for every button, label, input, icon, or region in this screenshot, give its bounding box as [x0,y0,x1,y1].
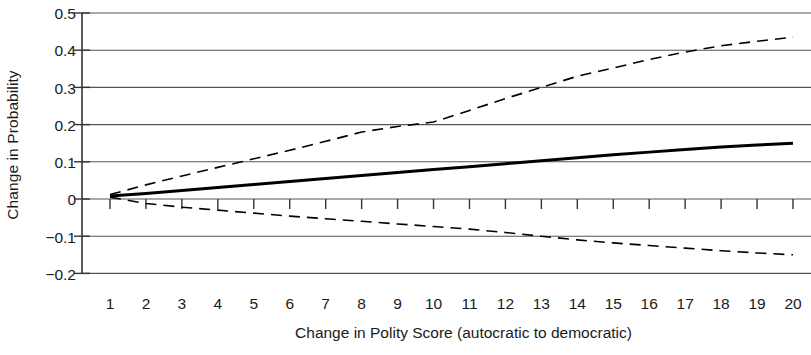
x-axis-tick-labels: 1234567891011121314151617181920 [0,296,811,318]
x-tick-label: 11 [454,296,484,312]
x-tick-label: 13 [526,296,556,312]
gridlines [82,13,811,273]
x-tick-label: 1 [95,296,125,312]
x-axis-tick-marks [110,199,793,209]
x-tick-label: 17 [670,296,700,312]
x-tick-label: 2 [131,296,161,312]
x-tick-label: 15 [598,296,628,312]
x-tick-label: 10 [419,296,449,312]
data-series-group [110,37,793,255]
x-tick-label: 18 [706,296,736,312]
series-line [110,197,793,255]
x-tick-label: 19 [742,296,772,312]
x-tick-label: 8 [347,296,377,312]
series-line [110,143,793,196]
x-tick-label: 3 [167,296,197,312]
x-tick-label: 6 [275,296,305,312]
x-tick-label: 5 [239,296,269,312]
series-line [110,37,793,194]
x-tick-label: 20 [778,296,808,312]
plot-area [0,0,811,300]
x-tick-label: 16 [634,296,664,312]
chart-container: Change in Probability 0.5 0.4 0.3 0.2 0.… [0,0,811,355]
x-tick-label: 14 [562,296,592,312]
x-axis-title-text: Change in Polity Score (autocratic to de… [295,324,632,341]
x-tick-label: 12 [490,296,520,312]
x-tick-label: 9 [383,296,413,312]
x-axis-title: Change in Polity Score (autocratic to de… [0,324,811,342]
x-tick-label: 7 [311,296,341,312]
x-tick-label: 4 [203,296,233,312]
